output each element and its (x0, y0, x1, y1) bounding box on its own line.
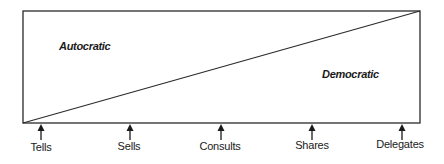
arrow-shares (309, 124, 316, 140)
democratic-label: Democratic (322, 68, 379, 80)
arrow-sells (127, 124, 134, 140)
label-delegates: Delegates (376, 138, 424, 150)
label-consults: Consults (199, 140, 240, 152)
autocratic-label: Autocratic (59, 40, 110, 52)
arrow-tells (38, 124, 45, 140)
diagonal-divider (23, 11, 420, 123)
label-sells: Sells (118, 140, 141, 152)
arrow-consults (218, 124, 225, 140)
label-shares: Shares (295, 139, 329, 151)
label-tells: Tells (30, 141, 51, 153)
